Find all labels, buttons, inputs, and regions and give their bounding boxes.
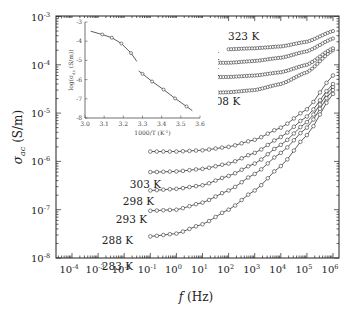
data-point: [201, 167, 205, 171]
inset-x-tick-label: 3.3: [138, 120, 148, 127]
data-point: [272, 156, 276, 160]
data-point: [175, 150, 179, 154]
data-point: [233, 144, 237, 148]
data-point: [331, 37, 334, 40]
x-tick-label: 105: [295, 263, 312, 275]
data-point: [188, 204, 192, 208]
inset-data-point: [141, 72, 144, 75]
data-point: [305, 107, 309, 111]
data-point: [220, 191, 224, 195]
data-point: [175, 170, 179, 174]
data-point: [253, 162, 257, 166]
inset-data-point: [101, 33, 104, 36]
data-point: [240, 156, 244, 160]
data-point: [240, 180, 244, 184]
data-point: [299, 119, 303, 123]
data-point: [233, 159, 237, 163]
data-point: [266, 143, 270, 147]
x-tick-label: 106: [322, 263, 339, 275]
data-point: [272, 147, 276, 151]
data-point: [292, 132, 296, 136]
data-point: [168, 170, 172, 174]
inset-data-point: [120, 42, 123, 45]
inset-y-tick-label: -8: [76, 114, 82, 121]
x-tick-label: 10-4: [59, 263, 78, 275]
y-tick-label: 10-3: [31, 11, 50, 23]
data-point: [305, 115, 309, 119]
data-point: [233, 204, 237, 208]
data-point: [299, 111, 303, 115]
x-tick-label: 100: [165, 263, 182, 275]
data-point: [207, 198, 211, 202]
data-point: [201, 148, 205, 152]
data-point: [181, 186, 185, 190]
data-point: [149, 150, 153, 154]
data-point: [331, 74, 335, 78]
data-point: [175, 187, 179, 191]
data-point: [318, 113, 322, 117]
data-point: [227, 162, 231, 166]
data-point: [312, 124, 316, 128]
data-point: [286, 146, 290, 150]
inset-data-point: [185, 105, 188, 108]
data-point: [194, 224, 198, 228]
data-point: [188, 227, 192, 231]
data-point: [286, 122, 290, 126]
data-point: [155, 150, 159, 154]
inset-y-tick-label: -6: [76, 76, 82, 83]
data-point: [201, 184, 205, 188]
data-point: [299, 125, 303, 129]
inset-x-tick-label: 3.6: [195, 120, 205, 127]
data-point: [227, 208, 231, 212]
data-point: [259, 168, 263, 172]
data-point: [149, 235, 153, 239]
y-axis-title: σac (S/m): [11, 110, 27, 164]
data-point: [279, 126, 283, 130]
data-point: [305, 120, 309, 124]
y-tick-label: 10-5: [31, 107, 50, 119]
data-point: [201, 201, 205, 205]
temperature-label: 303 K: [130, 178, 161, 190]
data-point: [181, 230, 185, 234]
inset-data-point: [110, 36, 113, 39]
data-point: [181, 149, 185, 153]
data-point: [279, 151, 283, 155]
data-point: [194, 149, 198, 153]
data-point: [312, 118, 316, 122]
data-point: [312, 100, 316, 104]
y-tick-label: 10-6: [31, 155, 50, 167]
data-point: [266, 176, 270, 180]
data-point: [214, 147, 218, 151]
data-point: [162, 170, 166, 174]
data-point: [246, 153, 250, 157]
inset-data-point: [162, 88, 165, 91]
data-point: [266, 152, 270, 156]
data-point: [162, 208, 166, 212]
data-point: [220, 146, 224, 150]
y-tick-label: 10-8: [31, 252, 50, 264]
data-point: [227, 145, 231, 149]
data-point: [279, 135, 283, 139]
data-point: [331, 82, 335, 86]
data-point: [188, 185, 192, 189]
data-point: [253, 151, 257, 155]
data-point: [155, 234, 159, 238]
data-point: [279, 164, 283, 168]
data-point: [194, 184, 198, 188]
data-point: [233, 185, 237, 189]
temperature-label: 288 K: [102, 234, 133, 246]
data-point: [279, 143, 283, 147]
data-point: [240, 142, 244, 146]
data-point: [299, 140, 303, 144]
data-point: [259, 158, 263, 162]
data-point: [181, 206, 185, 210]
data-point: [313, 65, 316, 68]
data-point: [246, 193, 250, 197]
data-point: [253, 138, 257, 142]
data-point: [162, 233, 166, 237]
inset-data-point: [174, 97, 177, 100]
data-point: [227, 174, 231, 178]
data-point: [168, 208, 172, 212]
data-point: [246, 164, 250, 168]
data-point: [188, 168, 192, 172]
